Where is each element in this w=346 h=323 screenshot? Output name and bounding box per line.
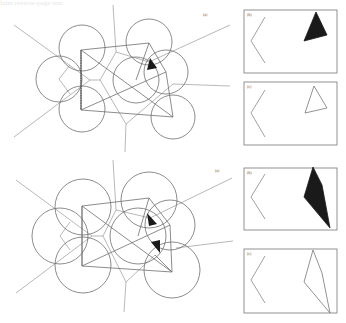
panel-label: (c) [247, 251, 252, 256]
panel-frame [244, 249, 337, 313]
panel-frame [244, 10, 337, 73]
panel: (c) [244, 82, 337, 145]
voronoi-edges [16, 160, 233, 312]
panel: (c) [244, 249, 337, 313]
diagram-label: (a) [215, 168, 220, 173]
diagram-top: (a) [14, 5, 230, 152]
panel: (b) [244, 10, 337, 73]
diagram-label: (a) [203, 12, 208, 17]
diagram-bottom: (a) [16, 160, 233, 312]
panel: (b) [244, 167, 337, 230]
hole-triangle [151, 240, 160, 253]
panel-label: (c) [247, 84, 252, 89]
sensor-range-circle [55, 237, 111, 293]
panel-frame [244, 82, 337, 145]
figure-canvas: (a) (a) (b)(c)(b)(c) [0, 0, 346, 323]
panel-label: (b) [247, 12, 252, 17]
voronoi-edges [14, 5, 230, 152]
triangulation-edges [82, 198, 172, 272]
panel-label: (b) [247, 170, 252, 175]
sensor-range-circle [59, 86, 105, 132]
side-panels: (b)(c)(b)(c) [244, 10, 337, 313]
